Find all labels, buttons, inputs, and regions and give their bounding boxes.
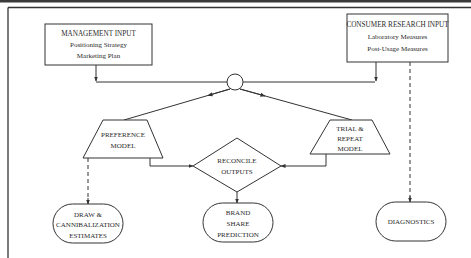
preference-model-line-2: MODEL: [111, 142, 136, 150]
management-input-box: MANAGEMENT INPUT Positioning Strategy Ma…: [45, 24, 152, 65]
brand-share-line-2: SHARE: [227, 220, 250, 228]
preference-model-line-1: PREFERENCE: [101, 131, 145, 139]
consumer-research-line-1: Laboratory Measures: [368, 33, 428, 41]
trial-repeat-line-2: REPEAT: [337, 135, 363, 143]
trial-repeat-line-1: TRIAL &: [336, 125, 364, 133]
management-input-title: MANAGEMENT INPUT: [61, 30, 136, 38]
diagnostics-label: DIAGNOSTICS: [388, 218, 435, 226]
junction-to-models: [124, 89, 352, 120]
reconcile-line-2: OUTPUTS: [221, 168, 253, 176]
consumer-research-line-2: Post-Usage Measures: [367, 45, 428, 53]
brand-share-line-1: BRAND: [226, 209, 251, 217]
trial-repeat-line-3: MODEL: [338, 145, 363, 153]
brand-share-prediction-terminal: BRAND SHARE PREDICTION: [203, 203, 273, 242]
reconcile-line-1: RECONCILE: [217, 157, 256, 165]
trial-repeat-model-trapezoid: TRIAL & REPEAT MODEL: [310, 120, 390, 154]
consumer-research-input-box: CONSUMER RESEARCH INPUT Laboratory Measu…: [346, 14, 449, 62]
management-input-line-1: Positioning Strategy: [70, 41, 127, 49]
draw-cannibalization-terminal: DRAW & CANNIBALIZATION ESTIMATES: [53, 204, 123, 243]
draw-line-2: CANNIBALIZATION: [56, 221, 120, 229]
management-input-line-2: Marketing Plan: [77, 52, 121, 60]
brand-share-line-3: PREDICTION: [217, 231, 259, 239]
reconcile-outputs-diamond: RECONCILE OUTPUTS: [193, 138, 281, 192]
diagnostics-terminal: DIAGNOSTICS: [376, 202, 446, 241]
preference-model-trapezoid: PREFERENCE MODEL: [83, 120, 163, 158]
consumer-research-title: CONSUMER RESEARCH INPUT: [346, 21, 449, 29]
draw-line-1: DRAW &: [74, 211, 102, 219]
draw-line-3: ESTIMATES: [69, 232, 107, 240]
junction-circle: [227, 74, 243, 90]
flowchart-diagram: MANAGEMENT INPUT Positioning Strategy Ma…: [0, 0, 471, 258]
